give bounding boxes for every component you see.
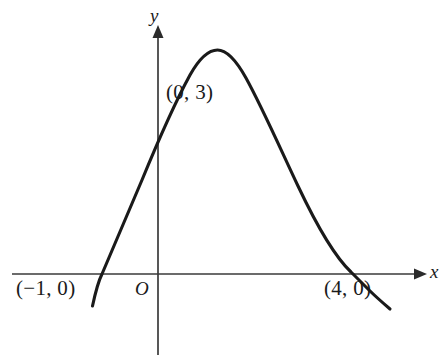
y-axis-arrowhead xyxy=(153,25,164,38)
graph-canvas xyxy=(0,0,444,359)
left-root-point-label: (−1, 0) xyxy=(16,278,75,299)
x-axis-label: x xyxy=(430,262,438,281)
parabola-curve xyxy=(93,50,391,309)
origin-label: O xyxy=(135,279,149,298)
y-axis-label: y xyxy=(150,6,158,25)
x-axis-arrowhead xyxy=(414,269,427,280)
parabola-figure: y x (0, 3) (−1, 0) (4, 0) O xyxy=(0,0,444,359)
y-intercept-point-label: (0, 3) xyxy=(166,82,213,103)
right-root-point-label: (4, 0) xyxy=(324,278,371,299)
